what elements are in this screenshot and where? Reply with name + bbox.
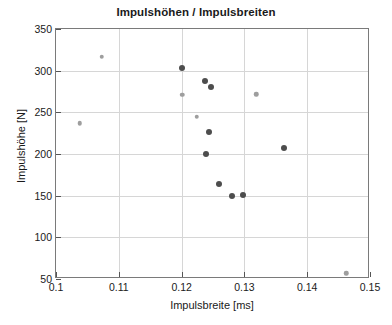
x-tick-mark (370, 272, 371, 277)
x-tick-mark (307, 272, 308, 277)
y-tick-label: 250 (34, 106, 52, 118)
data-point (208, 84, 214, 90)
y-tick-label: 300 (34, 65, 52, 77)
data-point (206, 129, 212, 135)
data-point (78, 121, 83, 126)
x-tick-mark (119, 272, 120, 277)
x-tick-label: 0.14 (297, 281, 317, 293)
y-tick-mark (56, 71, 61, 72)
x-tick-label: 0.1 (49, 281, 64, 293)
y-tick-label: 200 (34, 148, 52, 160)
data-point (100, 54, 105, 59)
y-tick-mark (56, 29, 61, 30)
data-point (229, 193, 235, 199)
data-point (202, 78, 208, 84)
x-tick-label: 0.13 (234, 281, 254, 293)
y-tick-label: 150 (34, 190, 52, 202)
gridline-horizontal (56, 196, 368, 197)
gridline-vertical (307, 29, 308, 277)
gridline-vertical (119, 29, 120, 277)
gridline-horizontal (56, 237, 368, 238)
data-point (216, 181, 222, 187)
plot-area: 501001502002503003500.10.110.120.130.140… (55, 28, 369, 278)
gridline-horizontal (56, 154, 368, 155)
y-tick-mark (56, 112, 61, 113)
scatter-chart: Impulshöhen / Impulsbreiten 501001502002… (0, 0, 392, 325)
y-tick-label: 100 (34, 231, 52, 243)
y-axis-label: Impulshöhe [N] (15, 76, 27, 216)
x-tick-label: 0.12 (171, 281, 191, 293)
data-point (281, 145, 287, 151)
data-point (179, 65, 185, 71)
x-tick-label: 0.15 (360, 281, 380, 293)
data-point (254, 92, 259, 97)
gridline-vertical (244, 29, 245, 277)
x-tick-mark (244, 272, 245, 277)
x-axis-label: Impulsbreite [ms] (55, 299, 369, 311)
data-point (344, 271, 349, 276)
data-point (180, 93, 185, 98)
x-tick-mark (56, 272, 57, 277)
y-tick-mark (56, 154, 61, 155)
gridline-horizontal (56, 71, 368, 72)
x-tick-mark (182, 272, 183, 277)
y-tick-label: 350 (34, 23, 52, 35)
data-point (194, 114, 199, 119)
chart-title: Impulshöhen / Impulsbreiten (0, 6, 392, 18)
y-tick-mark (56, 196, 61, 197)
gridline-horizontal (56, 112, 368, 113)
y-tick-mark (56, 237, 61, 238)
data-point (203, 151, 209, 157)
x-tick-label: 0.11 (109, 281, 129, 293)
y-tick-mark (56, 279, 61, 280)
data-point (240, 192, 246, 198)
